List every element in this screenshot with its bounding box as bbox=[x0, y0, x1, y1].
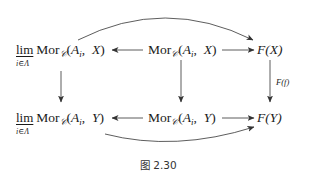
arg-x: X bbox=[204, 42, 212, 57]
mor-subscript: 𝒞 bbox=[60, 117, 67, 127]
arrow-curved-bottom bbox=[105, 127, 254, 142]
lim-word: lim bbox=[16, 110, 33, 125]
mor-text: Mor bbox=[36, 110, 59, 125]
node-bottom-middle: Mor𝒞(Ai, Y) bbox=[148, 110, 216, 127]
arg-a: A bbox=[183, 42, 191, 57]
mor-subscript: 𝒞 bbox=[171, 117, 178, 127]
mor-subscript: 𝒞 bbox=[171, 49, 178, 59]
paren-close: ) bbox=[100, 42, 105, 57]
comma: , bbox=[194, 110, 197, 125]
arg-a: A bbox=[183, 110, 191, 125]
arrow-curved-top bbox=[78, 18, 253, 40]
mor-text: Mor bbox=[36, 42, 59, 57]
arg-x: X bbox=[92, 42, 100, 57]
paren-close: ) bbox=[212, 42, 217, 57]
arg-a-subscript: i bbox=[79, 49, 82, 59]
mor-text: Mor bbox=[148, 110, 171, 125]
node-top-middle: Mor𝒞(Ai, X) bbox=[148, 42, 216, 59]
arrow-label-f-of-f: F(f) bbox=[276, 77, 289, 87]
commutative-diagram: lim i∈Λ Mor𝒞(Ai, X) Mor𝒞(Ai, X) F(X) F(f… bbox=[0, 0, 312, 180]
arg-a-subscript: i bbox=[79, 117, 82, 127]
lim-subscript: i∈Λ bbox=[16, 124, 29, 140]
arg-a-subscript: i bbox=[191, 49, 194, 59]
mor-subscript: 𝒞 bbox=[60, 49, 67, 59]
figure-caption: 图 2.30 bbox=[140, 157, 177, 172]
paren-close: ) bbox=[211, 110, 216, 125]
node-bottom-left: lim i∈Λ Mor𝒞(Ai, Y) bbox=[16, 110, 104, 127]
node-top-right: F(X) bbox=[257, 42, 282, 58]
colim-operator: lim i∈Λ bbox=[16, 110, 33, 126]
diagram-arrows bbox=[0, 0, 312, 180]
paren-close: ) bbox=[100, 110, 105, 125]
arg-y: Y bbox=[92, 110, 100, 125]
colim-operator: lim i∈Λ bbox=[16, 42, 33, 58]
lim-word: lim bbox=[16, 42, 33, 57]
comma: , bbox=[194, 42, 197, 57]
node-bottom-right: F(Y) bbox=[257, 110, 282, 126]
node-top-left: lim i∈Λ Mor𝒞(Ai, X) bbox=[16, 42, 105, 59]
comma: , bbox=[82, 42, 85, 57]
mor-text: Mor bbox=[148, 42, 171, 57]
arg-a-subscript: i bbox=[191, 117, 194, 127]
comma: , bbox=[82, 110, 85, 125]
lim-subscript: i∈Λ bbox=[16, 56, 29, 72]
